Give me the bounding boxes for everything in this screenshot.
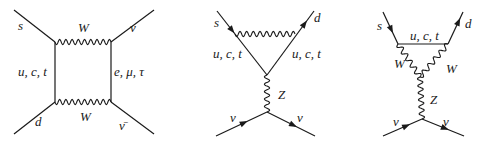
label-quarks-left: u, c, t <box>213 46 242 61</box>
w-boson-top <box>55 39 111 44</box>
label-leptons: e, μ, τ <box>114 64 145 79</box>
nu-in-line <box>383 119 422 136</box>
label-d: d <box>465 16 472 31</box>
label-quarks-right: u, c, t <box>292 46 321 61</box>
z-penguin-quark-diagram: s d u, c, t u, c, t Z ν ν <box>213 10 321 136</box>
label-w-left: W <box>394 56 406 71</box>
label-quarks: u, c, t <box>18 64 47 79</box>
label-s: s <box>18 18 23 33</box>
d-quark-line <box>448 12 463 44</box>
label-nu-out: ν <box>443 114 449 129</box>
z-boson <box>417 77 424 119</box>
arrow-nu-in <box>402 124 411 130</box>
s-quark-line <box>217 11 267 75</box>
label-s: s <box>214 15 219 30</box>
w-boson-bottom <box>55 99 111 104</box>
label-d: d <box>314 10 321 25</box>
label-nu: ν <box>130 20 136 35</box>
label-z: Z <box>430 92 438 107</box>
nubar-line <box>111 102 154 134</box>
label-d: d <box>35 114 42 129</box>
label-nu-out: ν <box>297 110 303 125</box>
label-nu-in: ν <box>230 110 236 125</box>
feynman-diagrams: s W ν u, c, t e, μ, τ W d ν̄ s d u, c, t… <box>0 0 479 145</box>
label-w-right: W <box>446 61 458 76</box>
label-w-top: W <box>78 20 90 35</box>
label-nubar: ν̄ <box>119 118 129 133</box>
arrow-s <box>227 25 234 33</box>
w-boson-right <box>420 44 448 78</box>
arrow-d <box>300 21 307 29</box>
label-s: s <box>377 18 382 33</box>
arrow-nu-out <box>288 121 297 127</box>
label-nu-in: ν <box>393 114 399 129</box>
z-penguin-w-diagram: s d u, c, t W W Z ν ν <box>377 12 472 136</box>
label-quarks: u, c, t <box>410 28 439 43</box>
arrow-nu-in <box>239 121 248 127</box>
label-w-bottom: W <box>80 109 92 124</box>
z-boson <box>264 75 269 112</box>
box-diagram: s W ν u, c, t e, μ, τ W d ν̄ <box>14 10 154 134</box>
label-z: Z <box>278 87 286 102</box>
arrow-s <box>387 25 393 34</box>
arrow-d <box>454 18 460 27</box>
w-boson <box>235 31 295 36</box>
